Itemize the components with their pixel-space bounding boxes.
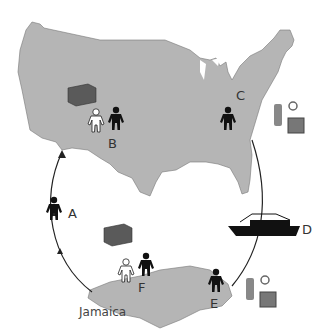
money-stack-icon	[68, 84, 96, 106]
label-d: D	[302, 222, 312, 237]
watch-icon	[246, 278, 254, 300]
arrow-head-3	[57, 248, 63, 254]
money-stack-icon	[104, 224, 132, 246]
label-f: F	[138, 280, 145, 295]
label-a: A	[68, 206, 77, 221]
watch-icon	[274, 104, 282, 126]
arrow-head-1	[58, 150, 66, 158]
person-black-icon	[46, 197, 62, 220]
label-c: C	[236, 88, 245, 103]
ship-icon	[228, 214, 300, 236]
label-b: B	[108, 136, 117, 151]
label-e: E	[210, 296, 218, 311]
television-icon	[288, 118, 304, 133]
usa-map	[18, 22, 294, 196]
diagram-canvas	[0, 0, 323, 336]
ring-icon	[289, 102, 297, 110]
label-jamaica: Jamaica	[79, 305, 126, 319]
television-icon	[260, 292, 276, 307]
ring-icon	[261, 276, 269, 284]
